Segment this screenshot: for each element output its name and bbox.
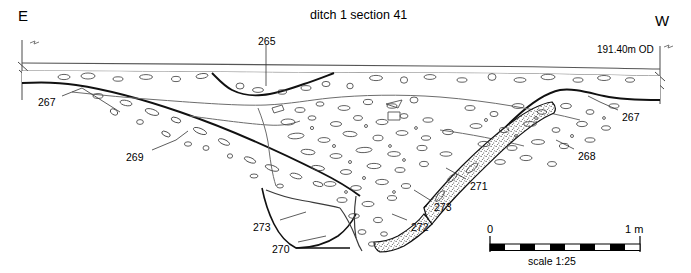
scale-start-label: 0 bbox=[487, 224, 493, 235]
context-label-272: 272 bbox=[411, 222, 429, 233]
datum-tick-left-icon bbox=[30, 41, 39, 44]
context-label-269: 269 bbox=[126, 152, 144, 163]
context-label-270: 270 bbox=[272, 244, 290, 255]
section-drawing-canvas bbox=[0, 0, 691, 273]
context-271-272-stipple-layer bbox=[374, 102, 555, 252]
context-267-fill bbox=[22, 71, 660, 100]
context-label-265: 265 bbox=[258, 36, 276, 47]
context-label-271: 271 bbox=[470, 181, 488, 192]
datum-tick-right-icon bbox=[664, 45, 673, 48]
context-label-273-lower: 273 bbox=[253, 222, 271, 233]
stone-inclusions-mid bbox=[93, 94, 323, 188]
scale-end-label: 1 m bbox=[625, 224, 643, 235]
context-label-268: 268 bbox=[578, 151, 596, 162]
section-drawing-figure: E W ditch 1 section 41 191.40m OD 265267… bbox=[0, 0, 691, 273]
context-label-267-right: 267 bbox=[622, 112, 640, 123]
datum-elevation-label: 191.40m OD bbox=[597, 45, 654, 55]
compass-label-west: W bbox=[655, 13, 669, 28]
context-273-boundary bbox=[266, 190, 362, 251]
scale-caption: scale 1:25 bbox=[528, 256, 576, 267]
context-267-boundary bbox=[22, 82, 660, 208]
section-title: ditch 1 section 41 bbox=[310, 9, 407, 22]
context-label-273-upper: 273 bbox=[434, 202, 452, 213]
compass-label-east: E bbox=[18, 8, 28, 23]
context-270-cut bbox=[262, 188, 356, 248]
scale-bar-graphic bbox=[490, 236, 640, 252]
context-label-267-left: 267 bbox=[38, 97, 56, 108]
